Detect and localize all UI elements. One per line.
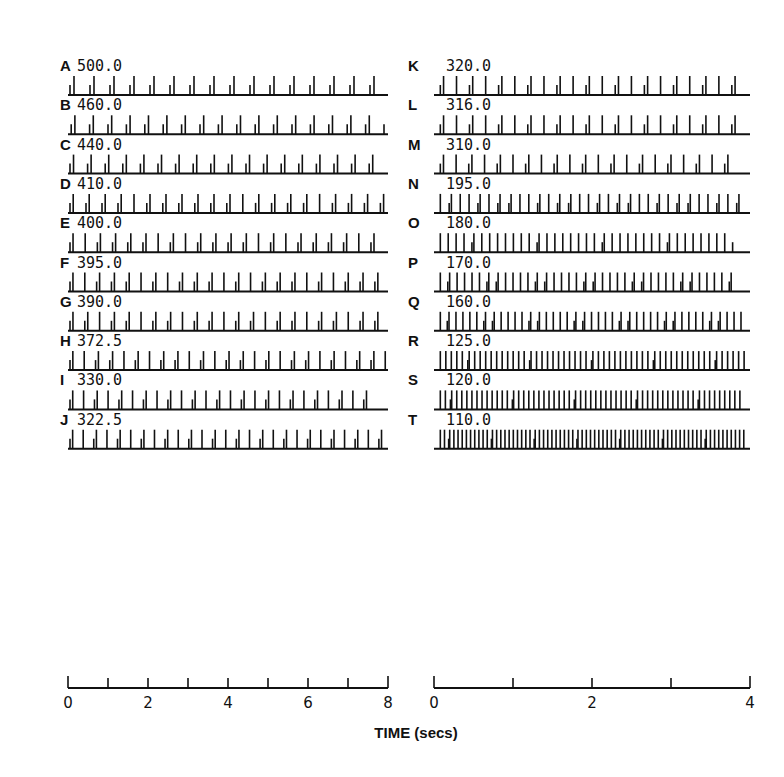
row-letter: M (408, 136, 421, 153)
row-letter: Q (408, 293, 420, 310)
row-letter: I (60, 371, 64, 388)
row-frequency-value: 440.0 (77, 136, 122, 154)
row-frequency-value: 316.0 (446, 96, 491, 114)
row-frequency-value: 310.0 (446, 136, 491, 154)
spike-train-row: J322.5 (60, 411, 388, 449)
spike-train-row: N195.0 (408, 175, 750, 213)
axis-tick-label: 8 (383, 694, 393, 712)
row-frequency-value: 160.0 (446, 293, 491, 311)
row-letter: S (408, 371, 418, 388)
spike-train-row: R125.0 (408, 332, 750, 370)
row-letter: G (60, 293, 72, 310)
spike-train-row: E400.0 (60, 214, 388, 252)
spike-train-row: G390.0 (60, 293, 388, 331)
axis-tick-label: 6 (303, 694, 313, 712)
row-frequency-value: 372.5 (77, 332, 122, 350)
row-frequency-value: 322.5 (77, 411, 122, 429)
row-frequency-value: 390.0 (77, 293, 122, 311)
spike-train-row: L316.0 (408, 96, 750, 134)
row-letter: J (60, 411, 68, 428)
row-frequency-value: 400.0 (77, 214, 122, 232)
spike-train-row: C440.0 (60, 136, 388, 174)
row-letter: T (408, 411, 417, 428)
left-raster-panel: A500.0B460.0C440.0D410.0E400.0F395.0G390… (60, 57, 388, 449)
spike-train-row: K320.0 (408, 57, 750, 95)
row-frequency-value: 170.0 (446, 254, 491, 272)
row-letter: F (60, 254, 69, 271)
row-letter: D (60, 175, 71, 192)
row-letter: L (408, 96, 417, 113)
row-letter: R (408, 332, 419, 349)
axis-tick-label: 0 (63, 694, 73, 712)
row-frequency-value: 195.0 (446, 175, 491, 193)
spike-train-row: A500.0 (60, 57, 388, 95)
row-letter: K (408, 57, 419, 74)
axis-tick-label: 4 (223, 694, 233, 712)
row-letter: N (408, 175, 419, 192)
row-letter: H (60, 332, 71, 349)
spike-train-row: P170.0 (408, 254, 750, 292)
spike-train-row: O180.0 (408, 214, 750, 252)
x-axis-title: TIME (secs) (374, 724, 457, 741)
row-frequency-value: 120.0 (446, 371, 491, 389)
spike-train-row: D410.0 (60, 175, 388, 213)
spike-train-row: M310.0 (408, 136, 750, 174)
axis-tick-label: 4 (745, 694, 755, 712)
axis-tick-label: 2 (143, 694, 153, 712)
row-frequency-value: 395.0 (77, 254, 122, 272)
right-raster-panel: K320.0L316.0M310.0N195.0O180.0P170.0Q160… (408, 57, 750, 449)
row-letter: E (60, 214, 70, 231)
row-frequency-value: 110.0 (446, 411, 491, 429)
row-frequency-value: 410.0 (77, 175, 122, 193)
spike-train-row: B460.0 (60, 96, 388, 134)
row-frequency-value: 500.0 (77, 57, 122, 75)
spike-train-row: Q160.0 (408, 293, 750, 331)
spike-train-row: H372.5 (60, 332, 388, 370)
row-frequency-value: 460.0 (77, 96, 122, 114)
spike-raster-figure: A500.0B460.0C440.0D410.0E400.0F395.0G390… (0, 0, 784, 777)
row-letter: A (60, 57, 71, 74)
spike-train-row: F395.0 (60, 254, 388, 292)
row-frequency-value: 125.0 (446, 332, 491, 350)
row-letter: P (408, 254, 418, 271)
axis-tick-label: 2 (587, 694, 597, 712)
axis-tick-label: 0 (429, 694, 439, 712)
row-frequency-value: 320.0 (446, 57, 491, 75)
spike-train-row: I330.0 (60, 371, 388, 409)
row-letter: B (60, 96, 71, 113)
left-time-axis: 02468 (63, 676, 393, 712)
row-letter: O (408, 214, 420, 231)
right-time-axis: 024 (429, 676, 755, 712)
row-frequency-value: 180.0 (446, 214, 491, 232)
spike-train-row: T110.0 (408, 411, 750, 449)
row-frequency-value: 330.0 (77, 371, 122, 389)
row-letter: C (60, 136, 71, 153)
spike-train-row: S120.0 (408, 371, 750, 409)
